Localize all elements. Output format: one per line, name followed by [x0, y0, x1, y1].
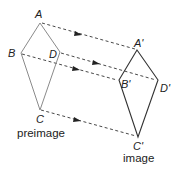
vector-a	[42, 23, 135, 49]
vector-b	[22, 54, 117, 80]
preimage-caption: preimage	[17, 127, 65, 139]
label-d-prime: D'	[160, 82, 171, 94]
label-c-prime: C'	[133, 140, 144, 152]
arrowhead-c	[73, 117, 81, 122]
arrowhead-d	[92, 60, 100, 65]
label-b: B	[8, 47, 15, 59]
label-a: A	[34, 8, 42, 20]
image-kite	[119, 50, 158, 137]
label-b-prime: B'	[121, 78, 131, 90]
label-c: C	[36, 113, 44, 125]
arrowhead-b	[72, 66, 80, 71]
label-d: D	[49, 48, 57, 60]
label-a-prime: A'	[133, 37, 144, 49]
translation-diagram: A B D C A' B' D' C' preimage image	[0, 0, 178, 169]
preimage-kite	[21, 23, 60, 110]
image-caption: image	[123, 152, 154, 164]
